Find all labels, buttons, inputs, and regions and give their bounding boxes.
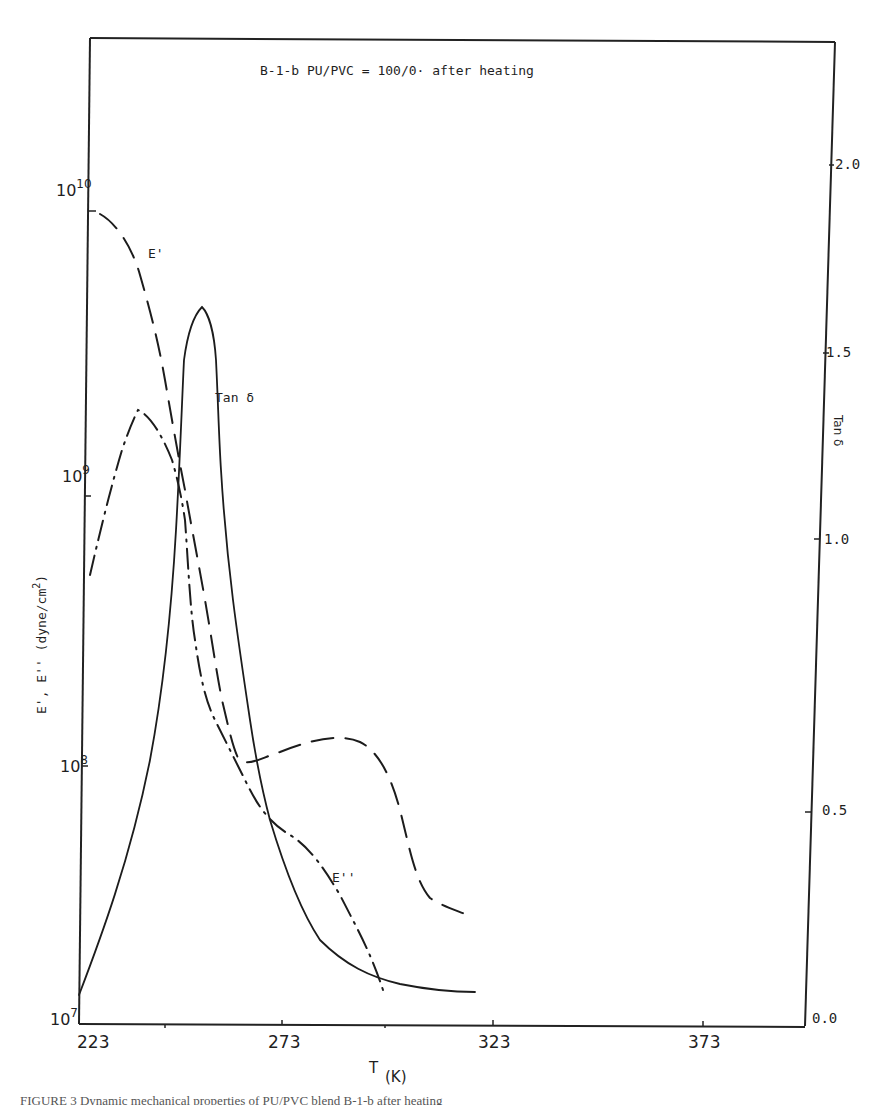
x-tick-labels: 223 273 323 373 — [77, 1032, 720, 1052]
figure-caption: FIGURE 3 Dynamic mechanical properties o… — [20, 1093, 880, 1105]
label-tan-delta: Tan δ — [215, 390, 254, 405]
chart-figure: 223 273 323 373 T (K) 1010 109 108 107 E… — [0, 0, 880, 1105]
label-e-double-prime: E'' — [332, 870, 355, 885]
y-right-axis-title: Tan δ — [831, 414, 845, 446]
x-axis-unit: (K) — [385, 1068, 407, 1086]
series-e-double-prime — [90, 410, 383, 990]
bottom-axis — [79, 1024, 805, 1027]
label-e-prime: E' — [148, 246, 164, 261]
y-right-tick-2.0: 2.0 — [835, 156, 860, 172]
y-right-tick-1.5: 1.5 — [826, 344, 851, 360]
y-right-tick-1.0: 1.0 — [824, 531, 849, 547]
y-right-tick-0.5: 0.5 — [822, 802, 847, 818]
chart-title: B-1-b PU/PVC = 100/0· after heating — [260, 63, 534, 78]
y-left-tick-labels: 1010 109 108 107 — [50, 177, 92, 1029]
x-axis-title: T — [368, 1059, 379, 1077]
x-tick-373: 373 — [688, 1032, 720, 1052]
y-right-ticks — [805, 165, 834, 812]
x-tick-323: 323 — [478, 1032, 510, 1052]
y-tick-1e10: 1010 — [56, 177, 92, 200]
x-tick-273: 273 — [268, 1032, 300, 1052]
plot-frame — [79, 38, 835, 1027]
y-tick-1e8: 108 — [60, 753, 88, 776]
top-border — [90, 38, 835, 42]
series-e-prime — [100, 214, 465, 914]
y-tick-1e7: 107 — [50, 1006, 78, 1029]
y-left-axis-title: E', E'' (dyne/cm2) — [31, 575, 49, 714]
x-tick-223: 223 — [77, 1032, 109, 1052]
y-right-tick-0.0: 0.0 — [812, 1010, 837, 1026]
